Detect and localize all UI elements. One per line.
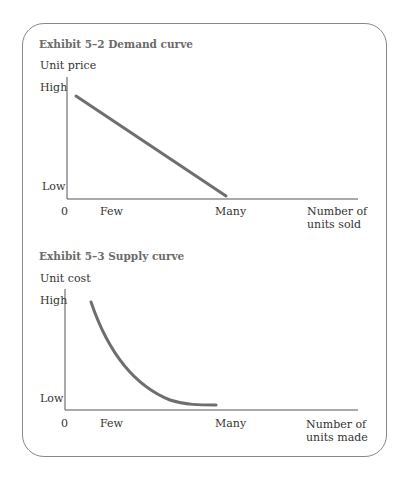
- demand-curve: [76, 96, 226, 196]
- supply-axes: [65, 289, 358, 410]
- supply-curve: [91, 302, 216, 405]
- demand-axes: [67, 77, 358, 199]
- plots: [0, 0, 406, 483]
